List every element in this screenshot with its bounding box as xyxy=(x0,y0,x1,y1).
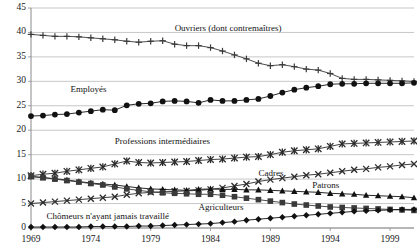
x-tick-1989: 1989 xyxy=(256,234,284,244)
y-tick-15: 15 xyxy=(0,149,26,159)
series-label-4: Patrons xyxy=(312,180,339,190)
y-tick-45: 45 xyxy=(0,2,26,12)
y-tick-35: 35 xyxy=(0,51,26,61)
y-tick-10: 10 xyxy=(0,173,26,183)
series-0 xyxy=(28,31,417,84)
y-tick-25: 25 xyxy=(0,100,26,110)
x-tick-1979: 1979 xyxy=(137,234,165,244)
x-tick-1999: 1999 xyxy=(376,234,404,244)
series-label-2: Professions intermédiaires xyxy=(115,136,210,146)
y-tick-40: 40 xyxy=(0,26,26,36)
x-tick-1969: 1969 xyxy=(17,234,45,244)
series-label-3: Cadres xyxy=(258,168,283,178)
series-label-0: Ouvriers (dont contremaîtres) xyxy=(175,23,282,33)
series-label-1: Employés xyxy=(70,84,106,94)
y-tick-5: 5 xyxy=(0,198,26,208)
series-label-5: Agriculteurs xyxy=(199,202,244,212)
y-tick-0: 0 xyxy=(0,222,26,232)
y-tick-20: 20 xyxy=(0,124,26,134)
chart-container: 051015202530354045 196919741979198419891… xyxy=(0,0,417,249)
series-3 xyxy=(28,161,417,207)
series-label-6: Chômeurs n'ayant jamais travaillé xyxy=(47,211,169,221)
x-tick-1984: 1984 xyxy=(197,234,225,244)
y-tick-30: 30 xyxy=(0,75,26,85)
x-tick-1994: 1994 xyxy=(316,234,344,244)
series-2 xyxy=(28,137,417,179)
x-tick-1974: 1974 xyxy=(77,234,105,244)
